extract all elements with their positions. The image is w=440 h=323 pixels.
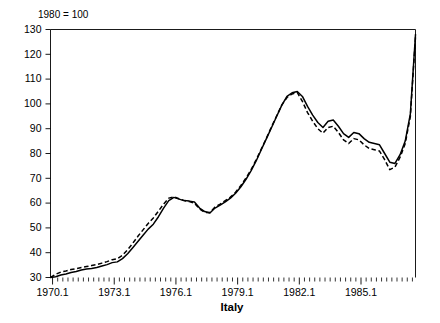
plot-frame: [51, 30, 416, 278]
y-tick-label: 60: [30, 196, 42, 208]
y-tick-label: 130: [24, 23, 42, 35]
y-tick-label: 30: [30, 271, 42, 283]
series-layer: [51, 34, 416, 277]
y-tick-label: 50: [30, 221, 42, 233]
chart-title: Italy: [220, 301, 244, 313]
x-tick-label: 1976.1: [160, 286, 192, 298]
y-tick-label: 40: [30, 246, 42, 258]
x-axis-labels: 1970.11973.11976.11979.11982.11985.1: [36, 286, 377, 298]
y-tick-label: 120: [24, 48, 42, 60]
y-tick-label: 80: [30, 147, 42, 159]
line-chart: 30405060708090100110120130 1970.11973.11…: [0, 0, 440, 323]
x-axis-minor-ticks: [58, 278, 413, 282]
axis-frame: [51, 30, 416, 278]
y-axis-ticks: [46, 30, 51, 278]
y-tick-label: 70: [30, 172, 42, 184]
y-axis-labels: 30405060708090100110120130: [24, 23, 42, 283]
y-tick-label: 90: [30, 122, 42, 134]
base-year-note: 1980 = 100: [38, 9, 89, 20]
x-tick-label: 1985.1: [345, 286, 377, 298]
series-line-solid: [51, 34, 416, 277]
x-tick-label: 1979.1: [222, 286, 254, 298]
y-tick-label: 110: [25, 72, 42, 84]
x-tick-label: 1982.1: [283, 286, 315, 298]
y-tick-label: 100: [24, 97, 42, 109]
chart-container: 30405060708090100110120130 1970.11973.11…: [0, 0, 440, 323]
x-tick-label: 1970.1: [36, 286, 68, 298]
x-tick-label: 1973.1: [98, 286, 130, 298]
series-line-dashed: [51, 37, 416, 278]
